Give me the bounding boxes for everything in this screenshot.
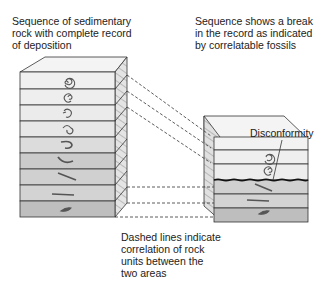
disconformity-label: Disconformity	[250, 127, 314, 139]
caption-line: two areas	[121, 267, 221, 279]
bottom-caption: Dashed lines indicate correlation of roc…	[121, 231, 221, 279]
caption-line: by correlatable fossils	[195, 39, 313, 51]
caption-line: Sequence shows a break	[195, 15, 313, 27]
correlation-lines	[115, 75, 214, 217]
caption-line: Dashed lines indicate	[121, 231, 221, 243]
left-caption: Sequence of sedimentary rock with comple…	[12, 15, 132, 51]
fossil-flat-shell-icon	[52, 194, 74, 195]
caption-line: correlation of rock	[121, 243, 221, 255]
caption-line: of deposition	[12, 39, 132, 51]
caption-line: units between the	[121, 255, 221, 267]
caption-line: in the record as indicated	[195, 27, 313, 39]
left-rock-column	[20, 57, 127, 217]
caption-line: rock with complete record	[12, 27, 132, 39]
right-caption: Sequence shows a break in the record as …	[195, 15, 313, 51]
caption-line: Sequence of sedimentary	[12, 15, 132, 27]
